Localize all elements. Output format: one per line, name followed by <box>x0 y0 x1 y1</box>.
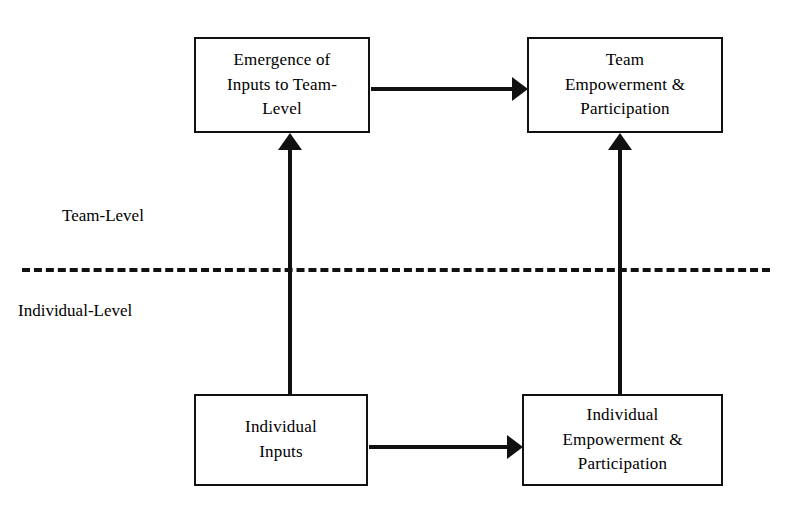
box-individual-empowerment-and-participation: Individual Empowerment & Participation <box>522 394 723 486</box>
diagram-canvas: Emergence of Inputs to Team- Level Team … <box>0 0 787 516</box>
box-individual-inputs: Individual Inputs <box>194 394 368 486</box>
level-caption-individual-level: Individual-Level <box>18 301 132 321</box>
box-label: Individual Empowerment & Participation <box>552 403 692 477</box>
level-caption-team-level: Team-Level <box>62 206 144 226</box>
box-label: Emergence of Inputs to Team- Level <box>217 48 347 122</box>
arrow-individual-inputs-to-emergence <box>278 133 302 394</box>
box-label: Team Empowerment & Participation <box>555 48 695 122</box>
box-team-empowerment-and-participation: Team Empowerment & Participation <box>527 37 723 133</box>
arrow-individual-empowerment-to-team-empowerment <box>608 133 632 394</box>
level-divider-dashed-line <box>22 268 770 272</box>
arrow-emergence-to-team-empowerment <box>371 77 528 101</box>
box-label: Individual Inputs <box>235 415 327 464</box>
box-emergence-of-inputs-to-team-level: Emergence of Inputs to Team- Level <box>194 37 370 133</box>
arrow-individual-inputs-to-individual-empowerment <box>369 435 523 459</box>
